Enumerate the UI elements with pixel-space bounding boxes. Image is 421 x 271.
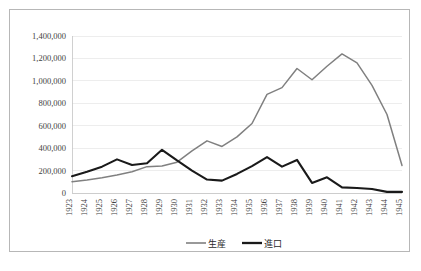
- data-series-group: [72, 54, 402, 192]
- x-tick-label: 1943: [364, 199, 374, 216]
- x-tick-label: 1924: [79, 198, 89, 216]
- y-tick-label: 1,000,000: [32, 76, 66, 86]
- x-tick-label: 1941: [334, 199, 344, 216]
- x-tick-label: 1937: [274, 199, 284, 216]
- legend-label-import: 進口: [264, 238, 282, 249]
- y-tick-label: 0: [62, 188, 66, 198]
- x-tick-label: 1931: [184, 199, 194, 216]
- y-tick-label: 800,000: [38, 98, 66, 108]
- x-tick-label: 1929: [154, 199, 164, 216]
- y-tick-label: 1,200,000: [32, 53, 66, 63]
- x-tick-label: 1925: [94, 199, 104, 216]
- chart-legend: 生産進口: [186, 238, 282, 249]
- legend-label-production: 生産: [208, 238, 226, 249]
- chart-frame: 0200,000400,000600,000800,0001,000,0001,…: [9, 9, 410, 252]
- x-tick-label: 1935: [244, 199, 254, 216]
- y-axis-tick-labels: 0200,000400,000600,000800,0001,000,0001,…: [32, 31, 66, 198]
- x-tick-label: 1936: [259, 199, 269, 216]
- x-tick-label: 1926: [109, 199, 119, 216]
- line-chart: 0200,000400,000600,000800,0001,000,0001,…: [10, 10, 411, 253]
- x-tick-label: 1939: [304, 199, 314, 216]
- x-tick-label: 1928: [139, 199, 149, 216]
- y-tick-label: 600,000: [38, 121, 66, 131]
- x-tick-label: 1942: [349, 199, 359, 216]
- series-line-production: [72, 54, 402, 182]
- x-tick-label: 1923: [64, 199, 74, 216]
- x-tick-label: 1932: [199, 199, 209, 216]
- y-tick-label: 200,000: [38, 166, 66, 176]
- x-tick-label: 1933: [214, 199, 224, 216]
- x-tick-label: 1945: [394, 199, 404, 216]
- x-tick-label: 1930: [169, 199, 179, 216]
- y-tick-label: 400,000: [38, 143, 66, 153]
- x-tick-label: 1944: [379, 198, 389, 216]
- x-tick-label: 1938: [289, 199, 299, 216]
- x-axis-tick-labels: 1923192419251926192719281929193019311932…: [64, 198, 404, 216]
- chart-plot-area: 0200,000400,000600,000800,0001,000,0001,…: [10, 10, 411, 253]
- y-tick-label: 1,400,000: [32, 31, 66, 41]
- x-tick-label: 1934: [229, 198, 239, 216]
- x-tick-label: 1927: [124, 199, 134, 216]
- x-tick-label: 1940: [319, 199, 329, 216]
